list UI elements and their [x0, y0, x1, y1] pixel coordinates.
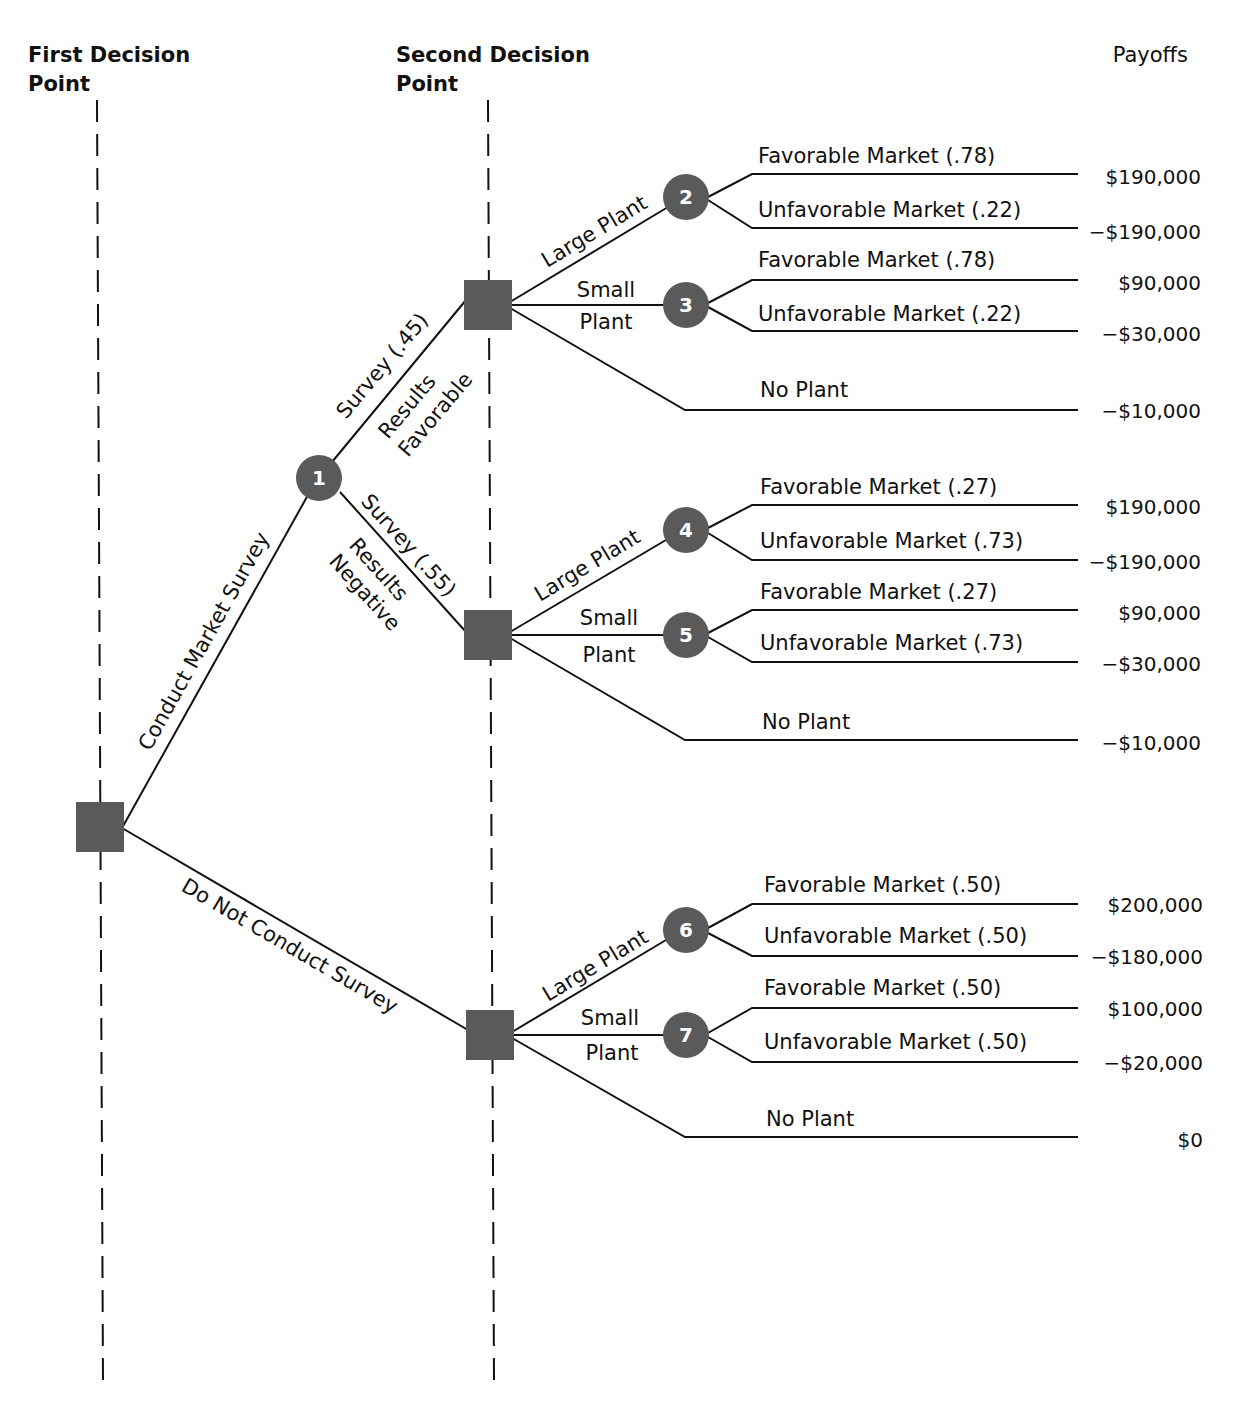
label-conduct-survey: Conduct Market Survey [133, 528, 274, 754]
payoff-value: $190,000 [1106, 165, 1201, 189]
header-payoffs: Payoffs [1113, 43, 1188, 67]
chance-node-4: 4 [663, 507, 709, 553]
decision-node-favorable [464, 280, 512, 330]
svg-text:1: 1 [312, 466, 326, 490]
payoff-value: $90,000 [1118, 271, 1201, 295]
first-decision-guide [97, 100, 103, 1380]
label-unfavorable-market: Unfavorable Market (.50) [764, 924, 1027, 948]
label-unfavorable-market: Unfavorable Market (.73) [760, 529, 1023, 553]
payoff-value: −$30,000 [1102, 322, 1201, 346]
label-plant: Plant [586, 1041, 639, 1065]
chance-node-6: 6 [663, 907, 709, 953]
label-small: Small [581, 1006, 639, 1030]
svg-text:7: 7 [679, 1023, 693, 1047]
decision-tree: First Decision Point Second Decision Poi… [0, 0, 1239, 1404]
svg-text:4: 4 [679, 518, 693, 542]
label-large-plant: Large Plant [538, 925, 652, 1007]
label-no-plant: No Plant [760, 378, 848, 402]
payoff-column: $190,000 −$190,000 $90,000 −$30,000 −$10… [1089, 165, 1203, 1152]
label-no-plant: No Plant [762, 710, 850, 734]
payoff-value: −$190,000 [1089, 550, 1201, 574]
svg-text:6: 6 [679, 918, 693, 942]
label-favorable-market: Favorable Market (.27) [760, 580, 997, 604]
label-small: Small [580, 606, 638, 630]
label-favorable-market: Favorable Market (.27) [760, 475, 997, 499]
chance-node-3: 3 [663, 282, 709, 328]
chance-node-5: 5 [663, 612, 709, 658]
header-first-decision: First Decision [28, 43, 190, 67]
payoff-value: $0 [1178, 1128, 1203, 1152]
chance-node-7: 7 [663, 1012, 709, 1058]
label-favorable-market: Favorable Market (.78) [758, 144, 995, 168]
label-plant: Plant [583, 643, 636, 667]
label-small: Small [577, 278, 635, 302]
svg-text:3: 3 [679, 293, 693, 317]
label-favorable-market: Favorable Market (.50) [764, 873, 1001, 897]
svg-text:5: 5 [679, 623, 693, 647]
label-favorable-market: Favorable Market (.78) [758, 248, 995, 272]
label-no-plant: No Plant [766, 1107, 854, 1131]
label-unfavorable-market: Unfavorable Market (.73) [760, 631, 1023, 655]
label-large-plant: Large Plant [537, 191, 651, 273]
label-large-plant: Large Plant [530, 525, 644, 607]
payoff-value: −$30,000 [1102, 652, 1201, 676]
label-plant: Plant [580, 310, 633, 334]
label-favorable-market: Favorable Market (.50) [764, 976, 1001, 1000]
svg-text:2: 2 [679, 185, 693, 209]
header-second-decision-point: Point [396, 72, 458, 96]
payoff-value: $90,000 [1118, 601, 1201, 625]
payoff-value: $100,000 [1108, 997, 1203, 1021]
label-unfavorable-market: Unfavorable Market (.22) [758, 302, 1021, 326]
chance-node-1: 1 [296, 455, 342, 501]
decision-node-negative [464, 610, 512, 660]
label-unfavorable-market: Unfavorable Market (.22) [758, 198, 1021, 222]
payoff-value: −$190,000 [1089, 220, 1201, 244]
first-decision-node [76, 802, 124, 852]
payoff-value: −$10,000 [1102, 399, 1201, 423]
payoff-value: $200,000 [1108, 893, 1203, 917]
label-unfavorable-market: Unfavorable Market (.50) [764, 1030, 1027, 1054]
chance-node-2: 2 [663, 174, 709, 220]
payoff-value: −$20,000 [1104, 1051, 1203, 1075]
payoff-value: −$180,000 [1091, 945, 1203, 969]
decision-node-no-survey [466, 1010, 514, 1060]
header-first-decision-point: Point [28, 72, 90, 96]
header-second-decision: Second Decision [396, 43, 590, 67]
label-no-survey: Do Not Conduct Survey [177, 874, 402, 1019]
payoff-value: $190,000 [1106, 495, 1201, 519]
payoff-value: −$10,000 [1102, 731, 1201, 755]
